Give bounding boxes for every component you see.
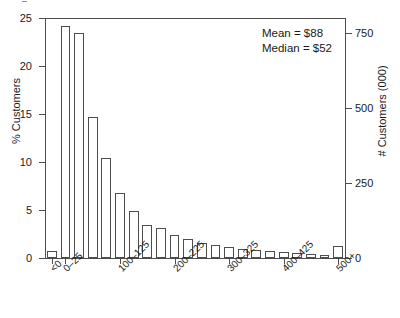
y-axis-left-title: % Customers [10, 51, 22, 171]
histogram-bar [265, 251, 275, 258]
y-tick-right [346, 108, 352, 109]
y-tick-left [39, 114, 45, 115]
crop-artifact-mark [22, 1, 27, 2]
histogram-bar [333, 246, 343, 258]
histogram-bar [74, 33, 84, 258]
y-tick-right [346, 33, 352, 34]
histogram-bar [306, 254, 316, 258]
histogram-bar [156, 228, 166, 258]
histogram-bar [88, 117, 98, 258]
histogram-bar [224, 247, 234, 258]
y-tick-label-right: 750 [355, 28, 389, 39]
y-tick-left [39, 66, 45, 67]
y-tick-right [346, 183, 352, 184]
histogram-chart: 0510152025 0250500750 <00–25100–125200–2… [0, 0, 400, 318]
histogram-bar [115, 193, 125, 258]
annotation-mean: Mean = $88 [262, 26, 323, 41]
histogram-bar [320, 255, 330, 258]
annotation-median: Median = $52 [262, 41, 332, 56]
histogram-bar [170, 235, 180, 258]
y-tick-left [39, 162, 45, 163]
y-tick-label-left: 5 [2, 205, 32, 216]
y-axis-right [345, 18, 346, 259]
y-tick-left [39, 210, 45, 211]
y-tick-label-left: 25 [2, 13, 32, 24]
histogram-bar [61, 26, 71, 258]
y-tick-label-right: 0 [355, 253, 389, 264]
y-tick-label-left: 0 [2, 253, 32, 264]
y-tick-left [39, 18, 45, 19]
y-axis-right-title: # Customers (000) [376, 41, 388, 181]
histogram-bar [101, 158, 111, 258]
histogram-bar [211, 245, 221, 258]
y-tick-left [39, 258, 45, 259]
